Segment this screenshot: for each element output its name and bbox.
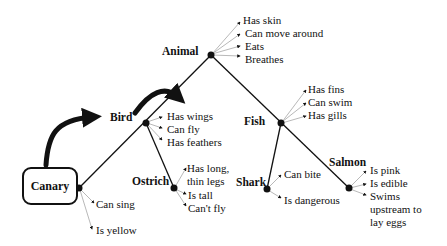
property-salmon-1: Is edible [370, 178, 408, 189]
node-label-fish: Fish [244, 116, 265, 128]
property-ostrich-3: Can't fly [188, 203, 226, 214]
property-ostrich-2: Is tall [188, 190, 213, 201]
property-ostrich-1: thin legs [187, 176, 225, 187]
property-shark-1: Is dangerous [284, 195, 340, 206]
property-salmon-4: lay eggs [370, 217, 406, 228]
property-animal-2: Eats [245, 41, 264, 52]
property-salmon-2: Swims [370, 191, 400, 202]
property-shark-0: Can bite [284, 169, 321, 180]
property-bird-0: Has wings [167, 111, 213, 122]
property-bird-1: Can fly [167, 124, 200, 135]
property-salmon-0: Is pink [370, 165, 400, 176]
node-label-shark: Shark [236, 177, 266, 189]
property-fish-1: Can swim [308, 97, 352, 108]
property-canary-1: Is yellow [96, 225, 137, 236]
property-animal-3: Breathes [245, 54, 283, 65]
node-label-canary: Canary [22, 167, 78, 205]
node-label-bird: Bird [110, 112, 132, 124]
property-bird-2: Has feathers [167, 137, 222, 148]
property-animal-1: Can move around [245, 28, 323, 39]
property-ostrich-0: Has long, [187, 163, 229, 174]
property-fish-0: Has fins [308, 84, 344, 95]
node-label-salmon: Salmon [329, 157, 366, 169]
node-label-animal: Animal [162, 46, 198, 58]
semantic-network-diagram: Animal Bird Fish Canary Ostrich Shark Sa… [0, 0, 447, 246]
property-fish-2: Has gills [308, 110, 347, 121]
property-canary-0: Can sing [96, 199, 135, 210]
property-salmon-3: upstream to [370, 204, 422, 215]
node-label-ostrich: Ostrich [132, 176, 169, 188]
property-animal-0: Has skin [243, 15, 281, 26]
